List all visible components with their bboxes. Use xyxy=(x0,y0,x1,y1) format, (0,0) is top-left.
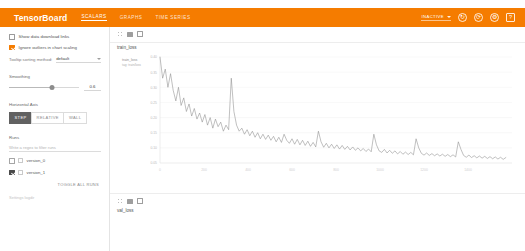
run-selector-dropdown[interactable]: INACTIVE xyxy=(421,14,451,21)
svg-text:0.25: 0.25 xyxy=(150,101,157,105)
run-checkbox[interactable] xyxy=(9,170,15,176)
tooltip-sorting-value: default xyxy=(56,56,69,61)
horizontal-axis-label: Horizontal Axis xyxy=(9,102,101,107)
settings-logdir-link[interactable]: Settings logdir xyxy=(9,195,101,200)
chart1-toolbar xyxy=(110,27,525,37)
toggle-all-runs-button[interactable]: TOGGLE ALL RUNS xyxy=(58,182,99,187)
main-panel: train_loss train_loss tag: train/loss 0.… xyxy=(110,27,525,251)
runs-filter-input[interactable]: Write a regex to filter runs xyxy=(9,145,101,153)
reload-icon[interactable]: ⟳ xyxy=(474,13,483,22)
show-download-links-label: Show data download links xyxy=(19,34,70,39)
tab-graphs[interactable]: GRAPHS xyxy=(120,15,143,21)
toggle-all-runs-wrap: TOGGLE ALL RUNS xyxy=(9,175,101,187)
tooltip-sorting-row: Tooltip sorting method: default xyxy=(9,56,101,63)
svg-text:0.20: 0.20 xyxy=(150,116,157,120)
sidebar: Show data download links Ignore outliers… xyxy=(0,27,110,251)
runs-label: Runs xyxy=(9,135,101,140)
run-name: version_1 xyxy=(27,170,46,175)
expand-icon[interactable] xyxy=(117,198,123,204)
smoothing-slider-fill xyxy=(9,87,52,88)
run-color-swatch xyxy=(18,170,23,175)
smoothing-row: 0.6 xyxy=(9,84,101,91)
svg-text:400: 400 xyxy=(245,168,251,172)
chevron-down-icon xyxy=(447,16,451,18)
svg-text:0.10: 0.10 xyxy=(150,146,157,150)
fit-icon[interactable] xyxy=(127,31,133,37)
download-icon[interactable] xyxy=(137,31,143,37)
app-brand: TensorBoard xyxy=(14,13,67,23)
smoothing-slider-thumb[interactable] xyxy=(50,85,55,90)
svg-text:200: 200 xyxy=(201,168,207,172)
expand-icon[interactable] xyxy=(117,31,123,37)
download-icon[interactable] xyxy=(137,198,143,204)
run-item-version-0[interactable]: version_0 xyxy=(9,158,101,164)
run-checkbox[interactable] xyxy=(9,158,15,164)
chart2-title: val_loss xyxy=(117,208,134,213)
tab-scalars[interactable]: SCALARS xyxy=(81,14,106,21)
show-download-links-row[interactable]: Show data download links xyxy=(9,34,101,40)
svg-text:600: 600 xyxy=(289,168,295,172)
svg-text:0.40: 0.40 xyxy=(150,55,157,59)
axis-wall-button[interactable]: WALL xyxy=(63,112,86,124)
refresh-icon[interactable]: ↻ xyxy=(458,13,467,22)
header-actions: INACTIVE ↻ ⟳ ⚙ ? xyxy=(421,13,515,22)
chart1-toolbar-row xyxy=(110,27,525,43)
axis-step-button[interactable]: STEP xyxy=(9,112,31,124)
show-download-links-checkbox[interactable] xyxy=(9,34,15,40)
svg-text:0.35: 0.35 xyxy=(150,71,157,75)
ignore-outliers-label: Ignore outliers in chart scaling xyxy=(19,45,77,50)
chart1-plot[interactable]: 0.050.100.150.200.250.300.350.4002004006… xyxy=(110,43,525,193)
chart2-container: val_loss xyxy=(110,193,525,238)
tab-time-series[interactable]: TIME SERIES xyxy=(155,15,190,21)
svg-text:0.30: 0.30 xyxy=(150,86,157,90)
ignore-outliers-checkbox[interactable] xyxy=(9,45,15,51)
tooltip-sorting-select[interactable]: default xyxy=(56,56,101,63)
settings-icon[interactable]: ⚙ xyxy=(490,13,499,22)
smoothing-slider[interactable] xyxy=(9,87,79,88)
tooltip-sorting-label: Tooltip sorting method: xyxy=(9,57,52,62)
horizontal-axis-buttons: STEP RELATIVE WALL xyxy=(9,112,101,124)
svg-text:0: 0 xyxy=(159,168,161,172)
svg-text:0.05: 0.05 xyxy=(150,161,157,165)
svg-text:1400: 1400 xyxy=(464,168,472,172)
help-icon[interactable]: ? xyxy=(506,13,515,22)
tensorboard-app: TensorBoard SCALARS GRAPHS TIME SERIES I… xyxy=(0,0,525,251)
svg-text:0.15: 0.15 xyxy=(150,131,157,135)
nav-tabs: SCALARS GRAPHS TIME SERIES xyxy=(81,14,190,21)
app-header: TensorBoard SCALARS GRAPHS TIME SERIES I… xyxy=(0,8,525,27)
svg-text:800: 800 xyxy=(333,168,339,172)
run-selector-label: INACTIVE xyxy=(421,14,444,19)
chart2-toolbar xyxy=(110,194,525,204)
svg-text:1000: 1000 xyxy=(376,168,384,172)
ignore-outliers-row[interactable]: Ignore outliers in chart scaling xyxy=(9,45,101,51)
run-color-swatch xyxy=(18,158,23,163)
smoothing-label: Smoothing xyxy=(9,74,101,79)
smoothing-value-input[interactable]: 0.6 xyxy=(84,84,101,91)
run-name: version_0 xyxy=(27,158,46,163)
svg-text:1200: 1200 xyxy=(420,168,428,172)
axis-relative-button[interactable]: RELATIVE xyxy=(31,112,63,124)
chart1-container: train_loss train_loss tag: train/loss 0.… xyxy=(110,43,525,193)
fit-icon[interactable] xyxy=(127,198,133,204)
chevron-down-icon xyxy=(97,58,101,60)
